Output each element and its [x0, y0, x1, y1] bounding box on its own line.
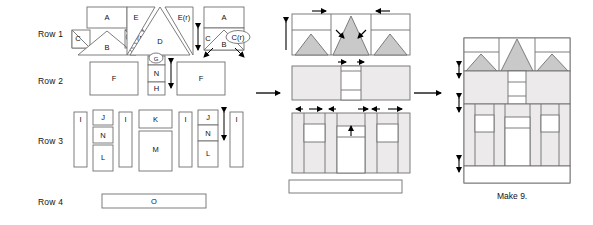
piece-l-1-label: L [101, 153, 105, 162]
finished-block [459, 38, 570, 183]
piece-l-2: L [198, 141, 218, 167]
row1-unit-preview: A C B C(r) [198, 7, 250, 57]
piece-g-label: G [154, 56, 159, 62]
row-label-row4: Row 4 [38, 197, 63, 207]
piece-f-right: F [177, 62, 225, 95]
piece-i-1: I [74, 112, 87, 167]
piece-i-3: I [179, 112, 192, 167]
piece-l-1: L [93, 145, 113, 171]
piece-i-2: I [119, 112, 132, 167]
row1-preview-cr-label: C(r) [232, 33, 245, 42]
row-label-row2: Row 2 [38, 76, 63, 86]
piece-k: K [139, 110, 172, 128]
sewn-row4 [289, 180, 402, 193]
piece-n-row3-b: N [198, 125, 218, 141]
piece-e-label: E [133, 13, 138, 22]
piece-c-label: C [75, 34, 81, 43]
piece-i-3-label: I [184, 115, 186, 124]
piece-k-label: K [153, 115, 158, 124]
piece-f-left: F [90, 62, 138, 95]
row1-preview-a-label: A [221, 13, 226, 22]
piece-n-row2: N [148, 65, 165, 82]
piece-h: H [148, 82, 165, 95]
make-count-caption: Make 9. [497, 191, 527, 201]
row1-preview-b-label: B [221, 40, 226, 49]
sewn-row1 [286, 11, 410, 55]
piece-m: M [139, 131, 172, 171]
piece-m-label: M [152, 145, 158, 154]
piece-d-label: D [157, 37, 163, 46]
row-label-row3: Row 3 [38, 136, 63, 146]
diagram-canvas: Row 1 Row 2 Row 3 Row 4 Make 9. A [0, 0, 593, 225]
piece-i-2-label: I [124, 115, 126, 124]
piece-n-row3-a: N [93, 127, 113, 143]
piece-o-label: O [151, 197, 157, 206]
piece-n-row2-label: N [154, 69, 159, 78]
piece-l-2-label: L [206, 149, 210, 158]
piece-n-row3-b-label: N [205, 129, 210, 138]
piece-j-2: J [198, 110, 218, 125]
piece-b-label: B [104, 43, 109, 52]
sewn-row2 [292, 62, 410, 100]
piece-i-4: I [230, 112, 243, 167]
piece-i-1-label: I [79, 115, 81, 124]
piece-c: C [72, 30, 90, 48]
piece-j-1: J [93, 110, 113, 125]
row-label-row1: Row 1 [38, 29, 63, 39]
row1-preview-c-label: C [205, 34, 211, 43]
piece-a-label: A [104, 13, 109, 22]
sewn-row3 [292, 109, 410, 173]
piece-n-row3-a-label: N [100, 131, 105, 140]
piece-o: O [102, 194, 206, 208]
piece-f-left-label: F [112, 74, 117, 83]
piece-e-reversed-label: E(r) [178, 13, 191, 22]
piece-i-4-label: I [235, 115, 237, 124]
piece-h-label: H [154, 84, 159, 93]
piece-j-1-label: J [101, 113, 105, 122]
piece-f-right-label: F [199, 74, 204, 83]
piece-a: A [87, 7, 127, 28]
piece-j-2-label: J [206, 113, 210, 122]
